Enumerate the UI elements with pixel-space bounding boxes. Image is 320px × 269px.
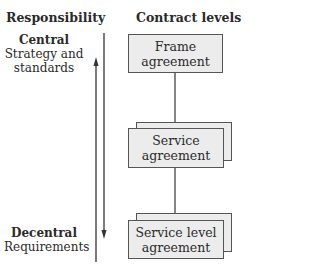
arrow-up-icon xyxy=(94,57,99,262)
service-agreement-line2: agreement xyxy=(142,148,211,163)
frame-agreement-box: Frame agreement xyxy=(128,34,223,73)
service-agreement-box: Service agreement xyxy=(128,128,224,168)
arrow-down-icon xyxy=(102,33,107,239)
sla-box: Service level agreement xyxy=(128,220,224,259)
service-agreement-line1: Service xyxy=(142,133,211,148)
frame-agreement-line1: Frame xyxy=(141,39,210,54)
sla-line1: Service level xyxy=(135,225,216,240)
frame-agreement-line2: agreement xyxy=(141,54,210,69)
sla-line2: agreement xyxy=(135,240,216,255)
